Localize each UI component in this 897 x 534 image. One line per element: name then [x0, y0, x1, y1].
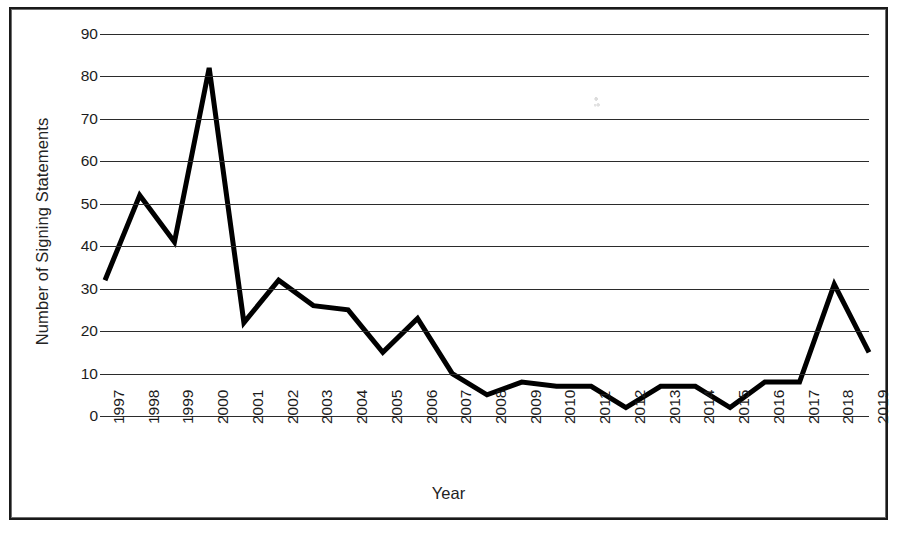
x-tick-label-2003: 2003: [319, 390, 335, 424]
x-axis-title: Year: [0, 484, 897, 503]
x-tick-label-2007: 2007: [458, 390, 474, 424]
gridline-30: [105, 289, 869, 290]
x-tick-label-2019: 2019: [875, 390, 891, 424]
y-tick-label-30: 30: [58, 281, 98, 297]
x-tick-label-2014: 2014: [701, 390, 717, 424]
gridline-90: [105, 34, 869, 35]
x-tick-label-2017: 2017: [806, 390, 822, 424]
gridline-10: [105, 374, 869, 375]
x-tick-label-2002: 2002: [285, 390, 301, 424]
line-series-number-of-signing-statements: [105, 34, 869, 416]
x-tick-label-2015: 2015: [736, 390, 752, 424]
x-tick-label-1998: 1998: [146, 390, 162, 424]
x-tick-label-2005: 2005: [389, 390, 405, 424]
x-tick-label-2004: 2004: [354, 390, 370, 424]
y-tick-label-40: 40: [58, 238, 98, 254]
x-tick-label-2009: 2009: [528, 390, 544, 424]
gridline-80: [105, 76, 869, 77]
gridline-20: [105, 331, 869, 332]
gridline-60: [105, 161, 869, 162]
x-tick-label-2013: 2013: [667, 390, 683, 424]
gridline-70: [105, 119, 869, 120]
plot-area: [105, 34, 869, 416]
figure-container: Number of Signing Statements 01020304050…: [0, 0, 897, 534]
y-tick-label-60: 60: [58, 153, 98, 169]
x-tick-label-2000: 2000: [215, 390, 231, 424]
y-axis-title: Number of Signing Statements: [33, 82, 52, 382]
gridline-50: [105, 204, 869, 205]
x-tick-label-1999: 1999: [180, 390, 196, 424]
gridline-40: [105, 246, 869, 247]
y-tick-label-10: 10: [58, 366, 98, 382]
x-tick-label-2001: 2001: [250, 390, 266, 424]
x-tick-label-2016: 2016: [771, 390, 787, 424]
x-tick-label-2010: 2010: [562, 390, 578, 424]
y-tick-label-50: 50: [58, 196, 98, 212]
y-tick-label-80: 80: [58, 68, 98, 84]
x-tick-label-2006: 2006: [424, 390, 440, 424]
y-tick-label-70: 70: [58, 111, 98, 127]
x-tick-label-1997: 1997: [111, 390, 127, 424]
x-tick-label-2012: 2012: [632, 390, 648, 424]
y-tick-label-90: 90: [58, 26, 98, 42]
x-tick-label-2011: 2011: [597, 391, 613, 424]
y-tick-label-20: 20: [58, 323, 98, 339]
x-tick-label-2018: 2018: [840, 390, 856, 424]
y-tick-label-0: 0: [58, 408, 98, 424]
x-tick-label-2008: 2008: [493, 390, 509, 424]
